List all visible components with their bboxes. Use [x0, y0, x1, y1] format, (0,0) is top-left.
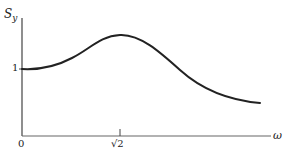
x-tick-label-0: 0 [18, 139, 24, 149]
response-curve [22, 35, 260, 103]
x-tick-label-sqrt2: √2 [111, 139, 124, 149]
spectral-density-plot [0, 0, 289, 156]
y-axis-label-base: S [4, 7, 12, 21]
y-axis-label: Sy [4, 8, 17, 23]
y-axis-label-subscript: y [12, 13, 17, 23]
y-tick-label-1: 1 [12, 63, 18, 73]
x-axis-label: ω [273, 130, 282, 141]
